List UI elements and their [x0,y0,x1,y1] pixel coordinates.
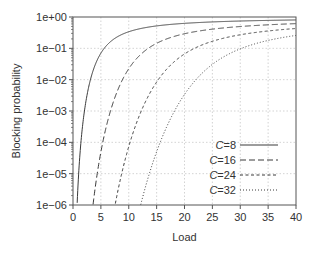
y-tick-label: 1e−01 [36,42,67,54]
y-tick-label: 1e−02 [36,74,67,86]
x-tick-label: 25 [206,211,218,223]
blocking-probability-chart: 0510152025303540 1e+001e−011e−021e−031e−… [0,0,316,255]
x-tick-label: 10 [123,211,135,223]
y-tick-label: 1e−05 [36,168,67,180]
legend-label-c16: C=16 [209,154,236,166]
x-tick-label: 40 [290,211,302,223]
legend-label-c24: C=24 [209,169,236,181]
legend-label-c8: C=8 [216,139,237,151]
x-tick-label: 30 [234,211,246,223]
x-tick-label: 35 [262,211,274,223]
curve-c16 [93,24,296,205]
x-tick-label: 15 [151,211,163,223]
plot-curves [77,20,296,205]
x-tick-label: 20 [178,211,190,223]
curve-c24 [115,28,296,203]
y-tick-label: 1e−03 [36,105,67,117]
legend-label-c32: C=32 [209,184,236,196]
y-axis-label: Blocking probability [10,63,22,158]
x-tick-label: 5 [98,211,104,223]
x-axis: 0510152025303540 [70,205,302,223]
y-tick-label: 1e−06 [36,199,67,211]
legend: C=8C=16C=24C=32 [209,139,278,196]
y-tick-label: 1e−04 [36,136,67,148]
y-tick-label: 1e+00 [36,11,67,23]
y-axis: 1e+001e−011e−021e−031e−041e−051e−06 [36,11,73,211]
x-tick-label: 0 [70,211,76,223]
x-axis-label: Load [172,231,196,243]
